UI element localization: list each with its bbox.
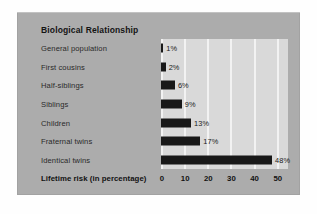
x-tick-0: 0 (160, 174, 164, 183)
bar-value-label: 6% (178, 81, 189, 90)
bar-value-label: 9% (185, 99, 196, 108)
chart-panel: Biological Relationship General populati… (17, 12, 300, 195)
bar (161, 137, 200, 146)
bar (161, 99, 182, 108)
bar-row: Fraternal twins17% (17, 132, 300, 151)
x-tick-50: 50 (273, 174, 282, 183)
bar-row: General population1% (17, 39, 300, 58)
category-label: Children (41, 118, 70, 127)
bar-value-label: 17% (203, 137, 218, 146)
category-label: Identical twins (41, 155, 90, 164)
bar-rows: General population1%First cousins2%Half-… (17, 39, 300, 169)
bar (161, 62, 166, 71)
chart-figure: Biological Relationship General populati… (0, 0, 317, 214)
bar (161, 44, 163, 53)
bar-row: Identical twins48% (17, 150, 300, 169)
category-label: Half-siblings (41, 81, 84, 90)
bar-row: First cousins2% (17, 58, 300, 77)
bar-row: Children13% (17, 113, 300, 132)
category-label: Siblings (41, 99, 68, 108)
bar (161, 81, 175, 90)
category-label: General population (41, 44, 107, 53)
category-label: Fraternal twins (41, 137, 92, 146)
x-tick-20: 20 (204, 174, 213, 183)
chart-title: Biological Relationship (41, 25, 138, 35)
bar-value-label: 48% (275, 155, 290, 164)
bar-value-label: 1% (166, 44, 177, 53)
x-axis-title: Lifetime risk (in percentage) (41, 174, 146, 183)
x-tick-10: 10 (181, 174, 190, 183)
bar-value-label: 13% (194, 118, 209, 127)
category-label: First cousins (41, 62, 85, 71)
x-tick-40: 40 (250, 174, 259, 183)
bar-row: Half-siblings6% (17, 76, 300, 95)
x-tick-30: 30 (227, 174, 236, 183)
bar-value-label: 2% (169, 62, 180, 71)
bar (161, 155, 272, 164)
bar-row: Siblings9% (17, 95, 300, 114)
bar (161, 118, 191, 127)
